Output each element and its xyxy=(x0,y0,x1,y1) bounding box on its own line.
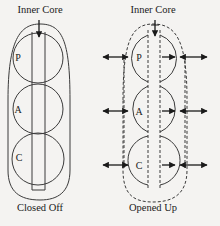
right-arc-p xyxy=(160,35,176,82)
left-label-p: P xyxy=(15,53,21,63)
left-caption: Closed Off xyxy=(17,203,63,214)
right-arc-a xyxy=(160,86,175,132)
right-arc-c xyxy=(160,136,180,185)
right-label-p: P xyxy=(136,53,142,63)
right-caption: Opened Up xyxy=(129,203,177,214)
left-label-a: A xyxy=(14,105,21,115)
right-title: Inner Core xyxy=(130,5,175,16)
right-label-a: A xyxy=(135,107,142,117)
right-label-c: C xyxy=(136,161,143,171)
opened-up-figure xyxy=(103,20,207,202)
left-label-c: C xyxy=(16,153,23,163)
diagram-canvas xyxy=(0,0,220,226)
left-title: Inner Core xyxy=(17,5,62,16)
